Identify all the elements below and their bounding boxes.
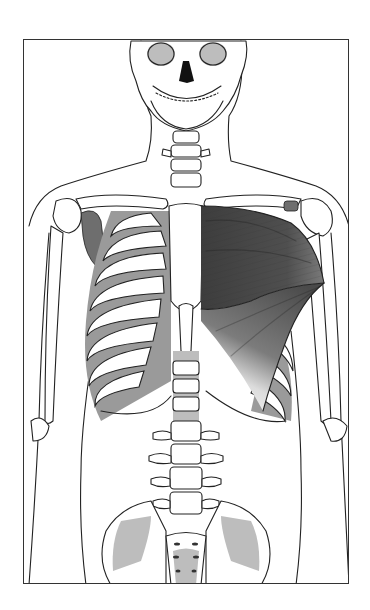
pectoralis-major-muscle: [201, 206, 324, 411]
sternum: [169, 204, 203, 354]
illustration-frame: [23, 39, 349, 584]
anatomy-illustration: [24, 40, 349, 584]
cervical-spine: [162, 131, 210, 187]
